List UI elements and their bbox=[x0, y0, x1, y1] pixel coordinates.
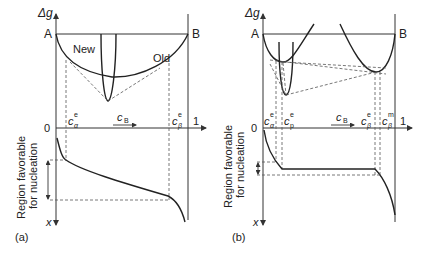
x-label: x bbox=[45, 216, 52, 228]
region-label-line1: Region favorable bbox=[15, 136, 27, 219]
panel-b: Δg A B 0 1 c e α c bbox=[222, 6, 412, 243]
svg-text:e: e bbox=[74, 111, 78, 118]
mark-c-alpha-e: c e α bbox=[68, 111, 79, 129]
caption-b: (b) bbox=[232, 231, 245, 243]
svg-text:c: c bbox=[117, 111, 123, 123]
beta-curve bbox=[340, 24, 395, 72]
origin-label: 0 bbox=[251, 122, 257, 134]
tangent-right-mid bbox=[286, 72, 376, 95]
nucleation-diagram: Δg A B 0 1 New Old c e α c bbox=[0, 0, 430, 254]
tangent-upper bbox=[283, 62, 386, 68]
mark-c-beta-e: c e β bbox=[361, 111, 371, 130]
panel-a: Δg A B 0 1 New Old c e α c bbox=[15, 6, 206, 243]
svg-text:e: e bbox=[367, 111, 371, 118]
composition-cb-label: c B bbox=[113, 111, 136, 125]
label-a: A bbox=[251, 27, 259, 41]
svg-text:e: e bbox=[178, 111, 182, 118]
region-label-line2: for nucleation bbox=[27, 143, 39, 209]
svg-text:B: B bbox=[343, 117, 348, 124]
label-new: New bbox=[73, 43, 95, 55]
mark-c-p-e: c e p bbox=[284, 111, 294, 130]
mark-c-beta-m: c m β bbox=[382, 111, 394, 130]
svg-text:c: c bbox=[336, 111, 342, 123]
svg-text:B: B bbox=[124, 117, 129, 124]
concentration-profile-a bbox=[57, 138, 185, 222]
svg-text:p: p bbox=[290, 122, 294, 130]
precipitate-curve bbox=[279, 42, 293, 95]
region-label-line1: Region favorable bbox=[222, 125, 234, 208]
alpha-curve bbox=[263, 24, 314, 62]
origin-label: 0 bbox=[44, 122, 50, 134]
new-phase-curve bbox=[101, 34, 116, 101]
end-label: 1 bbox=[193, 115, 199, 127]
label-a: A bbox=[44, 27, 52, 41]
tangent-right bbox=[108, 68, 160, 101]
svg-text:e: e bbox=[290, 111, 294, 118]
delta-g-label: Δg bbox=[37, 6, 53, 20]
svg-text:e: e bbox=[270, 111, 274, 118]
end-label: 1 bbox=[400, 115, 406, 127]
label-b: B bbox=[192, 27, 200, 41]
label-old: Old bbox=[153, 52, 170, 64]
composition-cb-label: c B bbox=[331, 111, 354, 125]
mark-c-beta-e: c e β bbox=[172, 111, 182, 130]
delta-g-label: Δg bbox=[244, 6, 260, 20]
svg-text:β: β bbox=[177, 122, 182, 130]
x-label: x bbox=[252, 216, 259, 228]
label-b: B bbox=[399, 27, 407, 41]
mark-c-alpha-e: c e α bbox=[264, 111, 275, 129]
region-label-line2: for nucleation bbox=[234, 132, 246, 198]
svg-text:m: m bbox=[388, 111, 394, 118]
caption-a: (a) bbox=[15, 231, 28, 243]
svg-text:β: β bbox=[387, 122, 392, 130]
svg-text:β: β bbox=[366, 122, 371, 130]
